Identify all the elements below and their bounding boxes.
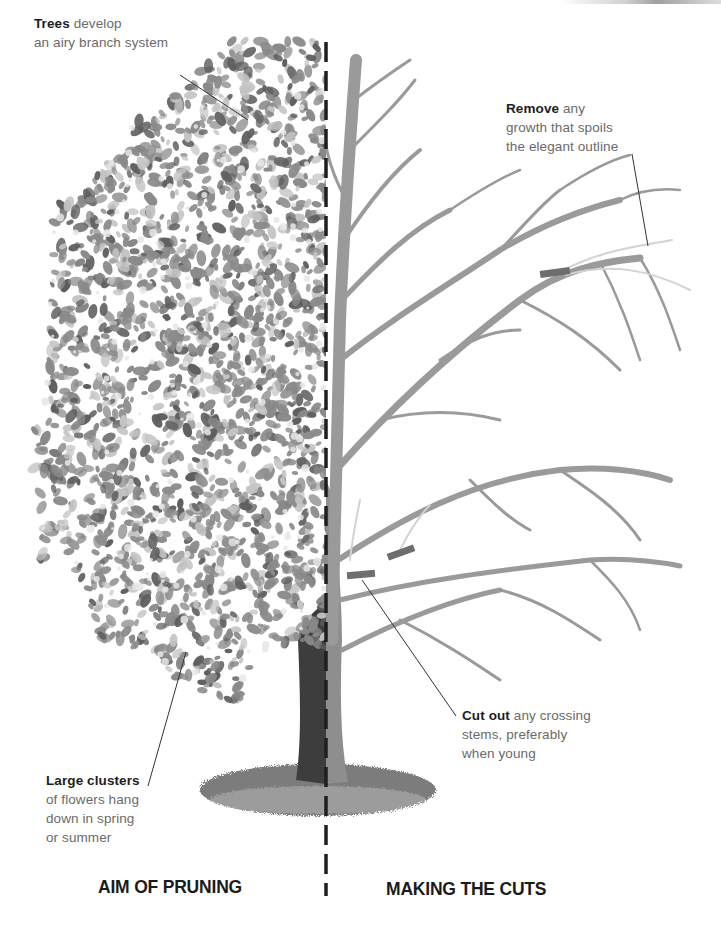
leaf — [210, 220, 228, 236]
flower — [104, 450, 109, 455]
flower — [290, 447, 296, 453]
flower — [287, 421, 293, 427]
flower — [129, 178, 133, 182]
flower — [161, 258, 167, 264]
leaf — [158, 213, 165, 220]
leaf — [184, 91, 198, 100]
flower — [299, 627, 303, 631]
flower — [184, 551, 190, 557]
flower — [201, 105, 205, 109]
leaf — [180, 238, 187, 243]
leaf — [287, 147, 292, 155]
flower — [281, 130, 287, 136]
leaf — [212, 128, 220, 136]
flower — [156, 484, 160, 488]
annotation-clusters: Large clusters of flowers hang down in s… — [46, 771, 140, 847]
flower — [279, 223, 287, 231]
flower — [262, 646, 268, 652]
annotation-trees-line2: an airy branch system — [34, 35, 168, 50]
leaf — [195, 165, 210, 174]
leaf — [306, 284, 311, 293]
leaf — [287, 82, 294, 91]
flower — [191, 516, 197, 522]
leaf — [128, 461, 136, 472]
flower — [196, 422, 202, 428]
branch — [400, 620, 500, 680]
flower — [244, 237, 250, 243]
leaf — [146, 377, 164, 395]
annotation-trees: Trees develop an airy branch system — [34, 14, 168, 52]
annotation-clusters-bold: Large clusters — [46, 773, 140, 788]
flower — [316, 209, 322, 215]
leaf — [114, 366, 120, 373]
flower — [171, 390, 176, 395]
leaf — [183, 400, 190, 407]
leaf — [120, 618, 135, 629]
flower — [98, 318, 104, 324]
flower — [104, 604, 109, 609]
flower — [48, 302, 53, 307]
leaf — [160, 284, 170, 294]
cut-mark — [347, 570, 376, 579]
leaf — [83, 362, 92, 370]
leaf — [292, 348, 299, 355]
leaf — [224, 457, 233, 465]
flower — [149, 359, 154, 364]
flower — [149, 281, 152, 284]
flower — [193, 378, 201, 386]
leaf — [130, 344, 140, 353]
leaf — [293, 308, 300, 312]
leaf — [126, 170, 133, 179]
flower — [148, 394, 154, 400]
leaf — [175, 199, 186, 212]
flower — [139, 495, 142, 498]
annotation-trees-bold: Trees — [34, 16, 70, 31]
annotation-remove: Remove any growth that spoils the elegan… — [506, 99, 618, 156]
flower — [152, 510, 159, 517]
leaf — [250, 609, 259, 614]
flower — [273, 217, 279, 223]
flower — [283, 546, 287, 550]
annotation-trees-line1: develop — [70, 16, 122, 31]
flower — [215, 566, 222, 573]
leaf — [261, 444, 272, 454]
flower — [221, 97, 225, 101]
flower — [250, 268, 257, 275]
flower — [245, 335, 252, 342]
flower — [252, 148, 257, 153]
leaf — [89, 611, 101, 624]
flower — [216, 534, 223, 541]
leaf — [315, 441, 322, 447]
flower — [230, 578, 233, 581]
leaf — [291, 34, 308, 48]
leaf — [271, 355, 276, 362]
flower — [103, 229, 111, 237]
flower — [161, 658, 169, 666]
flower — [127, 499, 135, 507]
flower — [237, 165, 245, 173]
flower — [52, 230, 56, 234]
leaf — [95, 465, 100, 472]
flower — [161, 579, 165, 583]
flower — [170, 383, 175, 388]
flower — [100, 503, 106, 509]
flower — [217, 159, 220, 162]
leaf — [311, 62, 320, 69]
flower — [124, 356, 129, 361]
flower — [78, 247, 82, 251]
flower — [290, 235, 296, 241]
flower — [111, 339, 117, 345]
flower — [137, 236, 144, 243]
leaf — [304, 64, 313, 78]
flower — [162, 586, 168, 592]
leaf — [199, 104, 210, 120]
leaf — [122, 605, 130, 615]
flower — [281, 608, 287, 614]
leaf — [166, 139, 171, 146]
flower — [124, 544, 132, 552]
flower — [73, 229, 79, 235]
annotation-remove-bold: Remove — [506, 101, 559, 116]
leaf — [291, 471, 298, 476]
flower — [153, 622, 158, 627]
leaf — [66, 219, 75, 226]
